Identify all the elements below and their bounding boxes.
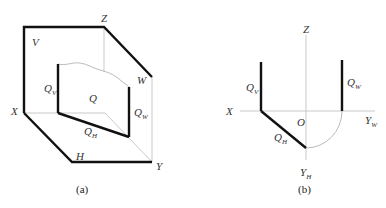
- qh-sub-b: H: [282, 138, 287, 146]
- qv-main-b: Q: [246, 81, 254, 93]
- label-q-plane: Q: [89, 93, 97, 104]
- qh-main: Q: [84, 125, 92, 137]
- qw-sub: W: [142, 113, 148, 121]
- qh-sub: H: [92, 132, 97, 140]
- qw-main: Q: [134, 106, 142, 118]
- yh-sub: H: [306, 173, 311, 181]
- label-z-a: Z: [101, 13, 107, 24]
- label-o: O: [297, 117, 305, 128]
- qv-sub: V: [52, 89, 56, 97]
- caption-a: (a): [76, 184, 88, 195]
- transfer-arc: [306, 111, 342, 148]
- label-w-plane: W: [137, 75, 146, 86]
- label-x-a: X: [11, 106, 18, 117]
- qw-main-b: Q: [347, 76, 355, 88]
- label-qh-b: QH: [274, 132, 287, 146]
- label-yh: YH: [300, 167, 311, 181]
- label-v-plane: V: [32, 37, 39, 48]
- label-x-b: X: [226, 106, 233, 117]
- label-qw-b: QW: [347, 77, 361, 91]
- break-line: [58, 63, 129, 87]
- label-y-a: Y: [156, 161, 162, 172]
- label-qw-a: QW: [134, 107, 148, 121]
- label-yw: YW: [365, 115, 377, 129]
- caption-b: (b): [298, 184, 311, 195]
- label-qv-a: QV: [44, 83, 56, 97]
- projection-diagram: [0, 0, 386, 208]
- qw-sub-b: W: [355, 83, 361, 91]
- label-h-plane: H: [76, 151, 84, 162]
- label-qv-b: QV: [246, 82, 258, 96]
- yw-sub: W: [371, 121, 377, 129]
- qv-main: Q: [44, 82, 52, 94]
- v-w-plane-outline: [24, 27, 152, 113]
- qv-sub-b: V: [254, 88, 258, 96]
- qh-main-b: Q: [274, 131, 282, 143]
- label-z-b: Z: [303, 24, 309, 35]
- figure-b-drawing: [240, 35, 375, 160]
- label-qh-a: QH: [84, 126, 97, 140]
